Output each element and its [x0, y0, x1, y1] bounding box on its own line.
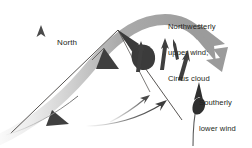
label-upper-line-2: upper wind; [168, 49, 216, 58]
north-arrow [37, 25, 46, 90]
label-north: North [57, 39, 77, 48]
label-lower-line-2: lower wind [199, 125, 236, 134]
label-upper-line-1: Northwesterly [168, 23, 216, 32]
label-lower-line-1: Southerly [199, 99, 236, 108]
diagram-canvas: North Northwesterly upper wind; Cirrus c… [0, 0, 252, 148]
label-southerly-lower-wind: Southerly lower wind [199, 82, 236, 148]
streamline-slope [110, 95, 150, 122]
